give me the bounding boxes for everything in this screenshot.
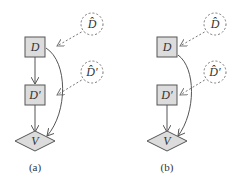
node-dhat: D̂ — [81, 13, 103, 35]
edge-dprimehat-to-dprime — [57, 78, 85, 95]
caption-a: (a) — [29, 161, 42, 174]
diagram-canvas: D̂ D D̂′ D′ V (a) D̂ — [0, 0, 245, 183]
node-d-label: D — [162, 40, 172, 54]
edge-dhat-to-d — [57, 30, 85, 46]
node-dprimehat: D̂′ — [204, 61, 226, 83]
node-dprime-label: D′ — [160, 88, 173, 102]
diagram-b: D̂ D D̂′ D′ V (b) — [147, 13, 226, 174]
edge-d-to-v-curved — [178, 55, 192, 136]
node-dprime-label: D′ — [28, 88, 41, 102]
node-dprimehat-label: D̂′ — [85, 65, 98, 79]
node-dprime: D′ — [157, 85, 177, 105]
caption-b: (b) — [161, 161, 174, 174]
node-d-label: D — [30, 40, 40, 54]
node-v: V — [147, 131, 187, 151]
node-d: D — [157, 37, 177, 57]
edge-d-to-v-curved — [46, 48, 63, 136]
edge-dhat-to-d — [180, 30, 208, 46]
edge-dprimehat-to-dprime — [180, 78, 208, 95]
node-dprimehat: D̂′ — [81, 61, 103, 83]
node-d: D — [25, 37, 45, 57]
node-dhat: D̂ — [204, 13, 226, 35]
node-dhat-label: D̂ — [87, 17, 97, 31]
node-dprime: D′ — [25, 85, 45, 105]
diagram-a: D̂ D D̂′ D′ V (a) — [15, 13, 103, 174]
node-dhat-label: D̂ — [210, 17, 220, 31]
node-dprimehat-label: D̂′ — [208, 65, 221, 79]
